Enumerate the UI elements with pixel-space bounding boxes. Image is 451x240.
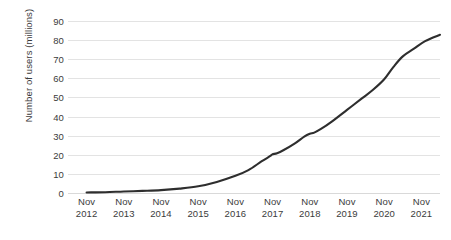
series-line-svg — [68, 21, 440, 193]
y-axis-tick-label: 70 — [36, 54, 64, 65]
gridline — [68, 193, 440, 194]
y-axis-title: Number of users (millions) — [23, 0, 34, 141]
series-line-path — [87, 35, 440, 193]
y-axis-tick-label: 60 — [36, 73, 64, 84]
x-axis-tick-year: 2021 — [393, 208, 449, 220]
y-axis-tick-label: 10 — [36, 168, 64, 179]
y-axis-tick-label: 50 — [36, 92, 64, 103]
y-axis-tick-label: 40 — [36, 111, 64, 122]
x-axis-tick-label: Nov2021 — [393, 196, 449, 219]
line-chart: Number of users (millions) 0102030405060… — [0, 0, 451, 240]
y-axis-tick-label: 30 — [36, 130, 64, 141]
y-axis-tick-label: 80 — [36, 35, 64, 46]
plot-area — [68, 21, 440, 193]
y-axis-tick-label: 90 — [36, 16, 64, 27]
x-axis-tick-month: Nov — [393, 196, 449, 208]
y-axis-tick-label: 20 — [36, 149, 64, 160]
x-axis-tick-labels: Nov2012Nov2013Nov2014Nov2015Nov2016Nov20… — [0, 196, 451, 236]
